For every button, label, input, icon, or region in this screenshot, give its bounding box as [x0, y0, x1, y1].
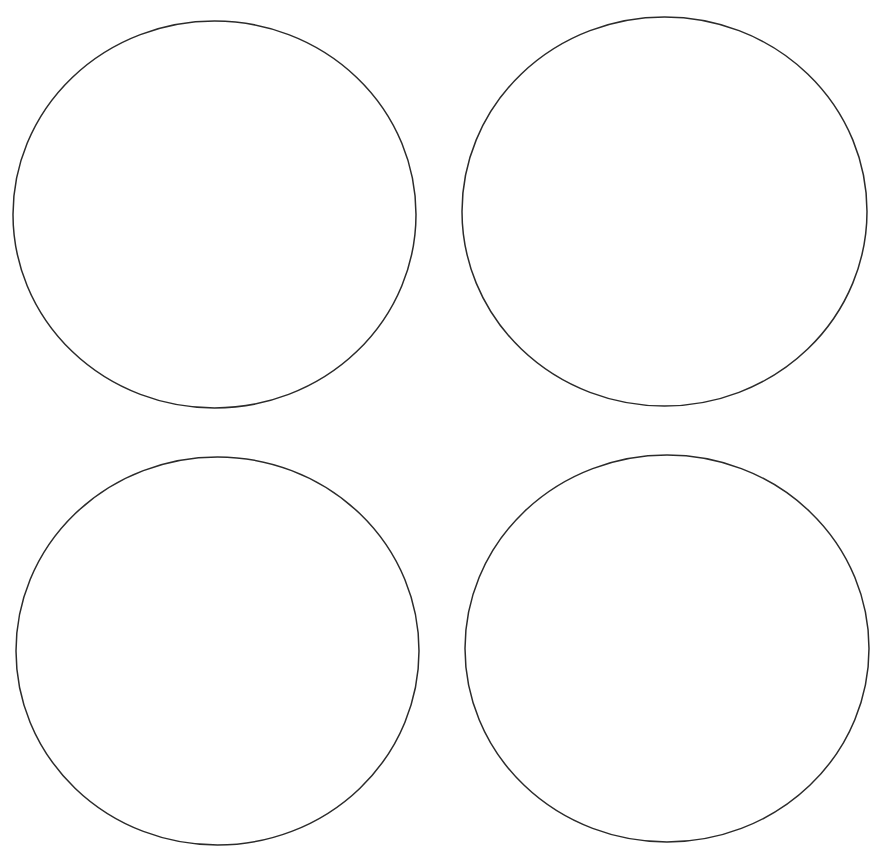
circle-bottom-left — [16, 457, 419, 845]
circle-template-grid — [0, 0, 890, 863]
circle-top-left — [13, 21, 416, 408]
circle-bottom-right — [465, 455, 869, 842]
worksheet-page — [0, 0, 890, 863]
circle-top-right — [462, 17, 867, 406]
